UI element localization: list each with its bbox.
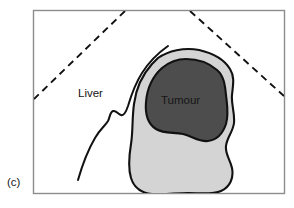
figure-container: Liver Tumour (c) (0, 0, 294, 208)
liver-label: Liver (78, 87, 103, 99)
liver-tumour-diagram: Liver Tumour (0, 0, 294, 208)
panel-caption: (c) (7, 176, 20, 188)
tumour-label: Tumour (161, 94, 200, 106)
